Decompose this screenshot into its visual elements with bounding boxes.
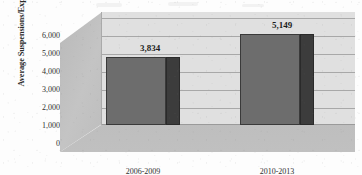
scan-artifact [96,3,122,7]
bar-chart: Average Suspensions/Expulsions 6,000 5,0… [0,0,362,175]
scan-artifact [168,2,198,6]
bar-front-face [106,57,166,125]
axis-left-edge [101,12,102,125]
y-tick-label: 0 [26,140,60,148]
gridline-6000 [101,18,355,19]
y-axis-tick-labels: 6,000 5,000 4,000 3,000 2,000 1,000 0 [26,36,60,146]
x-category-label-2: 2010-2013 [240,167,314,175]
gridline-5000 [101,36,355,37]
scan-artifact [242,4,264,7]
bar-front-face [240,34,300,125]
y-axis-title: Average Suspensions/Expulsions [17,0,26,106]
y-tick-label: 1,000 [26,122,60,130]
plot-area: 3,834 5,149 2006-2009 2010-2013 [60,12,355,152]
bar-value-label-2010-2013: 5,149 [272,20,292,30]
bar-2010-2013[interactable] [240,19,300,125]
bar-side-face [300,34,314,125]
y-tick-label: 3,000 [26,86,60,94]
y-tick-label: 6,000 [26,32,60,40]
x-category-label-1: 2006-2009 [106,167,180,175]
bar-2006-2009[interactable] [106,42,166,125]
y-tick-label: 5,000 [26,50,60,58]
y-tick-label: 2,000 [26,104,60,112]
bar-value-label-2006-2009: 3,834 [140,43,160,53]
y-tick-label: 4,000 [26,68,60,76]
bar-side-face [166,57,180,125]
